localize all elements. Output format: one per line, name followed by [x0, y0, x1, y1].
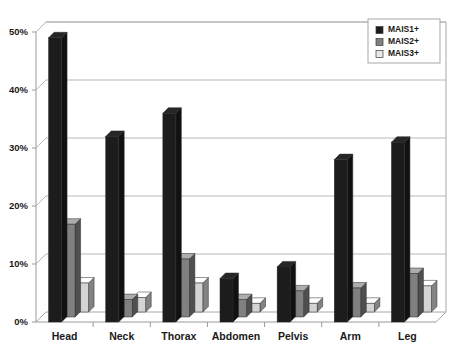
bar-front-face — [163, 113, 176, 322]
bar-side-face — [418, 268, 424, 317]
bar-side-face — [189, 254, 195, 318]
y-tick-label: 20% — [9, 200, 29, 211]
x-tick-label-leg: Leg — [398, 330, 417, 342]
bar-front-face — [220, 279, 233, 323]
bar-neck-mais1+ — [106, 131, 125, 322]
legend-swatch — [376, 39, 383, 46]
x-tick-label-head: Head — [52, 330, 78, 342]
bar-side-face — [75, 219, 81, 317]
bar-front-face — [391, 142, 404, 322]
y-tick-label: 30% — [9, 142, 29, 153]
x-tick-label-abdomen: Abdomen — [212, 330, 260, 342]
bar-side-face — [119, 131, 125, 322]
bar-side-face — [347, 154, 353, 322]
legend-swatch — [376, 27, 383, 34]
bar-abdomen-mais1+ — [220, 273, 239, 322]
y-tick-label: 0% — [14, 316, 28, 327]
y-tick-label: 50% — [9, 26, 29, 37]
legend-label: MAIS1+ — [388, 24, 419, 34]
plot-frame — [36, 22, 446, 322]
bar-thorax-mais1+ — [163, 108, 182, 322]
chart-container: 0%10%20%30%40%50% HeadNeckThoraxAbdomenP… — [0, 0, 461, 359]
bar-leg-mais1+ — [391, 137, 410, 322]
bar-side-face — [233, 273, 239, 322]
bar-side-face — [361, 283, 367, 318]
bar-side-face — [290, 261, 296, 322]
y-tick-label: 10% — [9, 258, 29, 269]
bar-head-mais1+ — [49, 32, 67, 322]
x-tick-label-thorax: Thorax — [161, 330, 196, 342]
bar-front-face — [277, 267, 290, 322]
bar-pelvis-mais1+ — [277, 261, 296, 322]
legend-label: MAIS2+ — [388, 36, 419, 46]
bar-front-face — [334, 160, 347, 322]
bar-arm-mais1+ — [334, 154, 353, 322]
bar-side-face — [203, 278, 209, 313]
legend-label: MAIS3+ — [388, 48, 419, 58]
x-tick-label-pelvis: Pelvis — [278, 330, 309, 342]
legend-swatch — [376, 51, 383, 58]
x-tick-label-arm: Arm — [340, 330, 361, 342]
y-tick-label: 40% — [9, 84, 29, 95]
bar-side-face — [62, 32, 67, 322]
grouped-bar-chart: 0%10%20%30%40%50% HeadNeckThoraxAbdomenP… — [0, 0, 461, 359]
bar-side-face — [404, 137, 410, 322]
bar-side-face — [89, 278, 95, 313]
bar-front-face — [106, 136, 119, 322]
bar-side-face — [176, 108, 182, 322]
bar-front-face — [49, 38, 62, 322]
x-tick-label-neck: Neck — [109, 330, 134, 342]
chart-legend: MAIS1+MAIS2+MAIS3+ — [368, 19, 440, 63]
